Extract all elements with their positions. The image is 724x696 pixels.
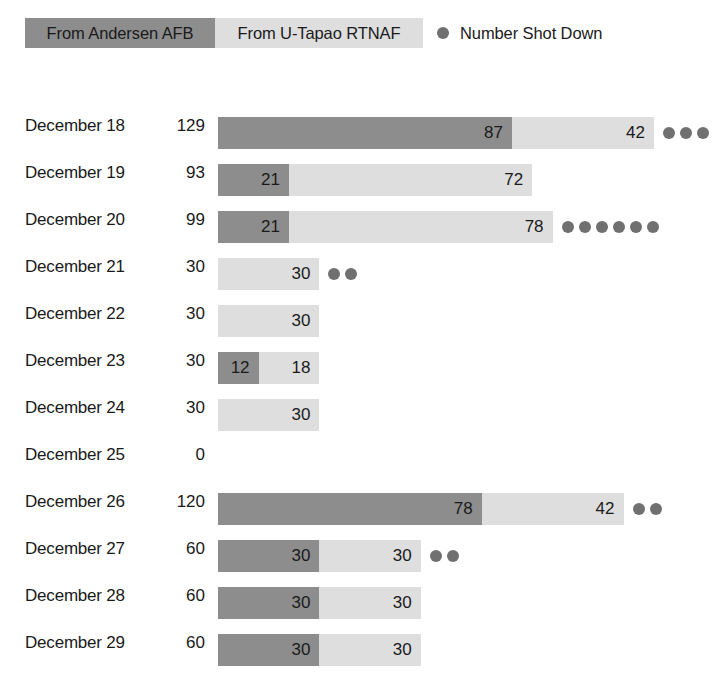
dot-marker-icon	[633, 503, 645, 515]
row-total-value: 60	[148, 627, 205, 659]
dot-marker-icon	[630, 221, 642, 233]
chart-row: December 29603030	[0, 627, 724, 674]
row-total-value: 30	[148, 251, 205, 283]
row-total-value: 0	[148, 439, 205, 471]
chart-row: December 20992178	[0, 204, 724, 251]
bar-segment-u-tapao-rtnaf: 42	[482, 493, 624, 525]
stacked-bar: 30	[218, 399, 319, 431]
stacked-bar: 2178	[218, 211, 553, 243]
shot-down-dots	[553, 211, 659, 243]
bar-segment-andersen-afb: 21	[218, 211, 289, 243]
stacked-bar: 3030	[218, 540, 421, 572]
legend-label-u-tapao-rtnaf: From U-Tapao RTNAF	[238, 24, 401, 43]
dot-marker-icon	[328, 268, 340, 280]
bar-segment-andersen-afb: 12	[218, 352, 259, 384]
stacked-bar: 3030	[218, 634, 421, 666]
row-total-value: 120	[148, 486, 205, 518]
row-category-label: December 29	[25, 627, 125, 659]
bar-segment-u-tapao-rtnaf: 30	[319, 540, 420, 572]
dot-marker-icon	[430, 550, 442, 562]
chart-row: December 250	[0, 439, 724, 486]
row-total-value: 30	[148, 345, 205, 377]
row-total-value: 30	[148, 392, 205, 424]
bar-segment-u-tapao-rtnaf: 30	[319, 587, 420, 619]
chart-row: December 213030	[0, 251, 724, 298]
bar-segment-andersen-afb: 30	[218, 634, 319, 666]
bar-segment-u-tapao-rtnaf: 30	[218, 305, 319, 337]
bar-segment-u-tapao-rtnaf: 72	[289, 164, 532, 196]
stacked-bar: 1218	[218, 352, 319, 384]
row-category-label: December 26	[25, 486, 125, 518]
dot-marker-icon	[579, 221, 591, 233]
bar-segment-andersen-afb: 78	[218, 493, 482, 525]
legend-item-andersen-afb: From Andersen AFB	[25, 18, 215, 48]
legend-item-number-shot-down: Number Shot Down	[423, 18, 602, 48]
dot-marker-icon	[647, 221, 659, 233]
dot-marker-icon	[447, 550, 459, 562]
chart-row: December 223030	[0, 298, 724, 345]
dot-marker-icon	[437, 27, 449, 39]
legend-item-u-tapao-rtnaf: From U-Tapao RTNAF	[215, 18, 423, 48]
dot-marker-icon	[680, 127, 692, 139]
dot-marker-icon	[697, 127, 709, 139]
stacked-bar: 30	[218, 305, 319, 337]
dot-marker-icon	[596, 221, 608, 233]
row-category-label: December 21	[25, 251, 125, 283]
row-category-label: December 24	[25, 392, 125, 424]
bar-segment-u-tapao-rtnaf: 42	[512, 117, 654, 149]
chart-legend: From Andersen AFB From U-Tapao RTNAF Num…	[25, 18, 602, 48]
row-total-value: 93	[148, 157, 205, 189]
row-category-label: December 20	[25, 204, 125, 236]
chart-row: December 27603030	[0, 533, 724, 580]
row-category-label: December 18	[25, 110, 125, 142]
stacked-bar: 2172	[218, 164, 532, 196]
chart-row: December 28603030	[0, 580, 724, 627]
chart-row: December 23301218	[0, 345, 724, 392]
bar-segment-andersen-afb: 30	[218, 587, 319, 619]
chart-row: December 181298742	[0, 110, 724, 157]
row-total-value: 60	[148, 533, 205, 565]
bar-segment-andersen-afb: 87	[218, 117, 512, 149]
bar-segment-u-tapao-rtnaf: 30	[218, 399, 319, 431]
stacked-bar: 8742	[218, 117, 654, 149]
chart-rows: December 181298742December 19932172Decem…	[0, 110, 724, 674]
shot-down-dots	[421, 540, 459, 572]
row-category-label: December 28	[25, 580, 125, 612]
dot-marker-icon	[345, 268, 357, 280]
row-category-label: December 23	[25, 345, 125, 377]
row-category-label: December 19	[25, 157, 125, 189]
legend-label-andersen-afb: From Andersen AFB	[47, 24, 194, 43]
stacked-bar: 30	[218, 258, 319, 290]
bar-segment-andersen-afb: 30	[218, 540, 319, 572]
chart-row: December 19932172	[0, 157, 724, 204]
shot-down-dots	[654, 117, 709, 149]
dot-marker-icon	[562, 221, 574, 233]
row-total-value: 129	[148, 110, 205, 142]
row-total-value: 99	[148, 204, 205, 236]
shot-down-dots	[319, 258, 357, 290]
bar-segment-u-tapao-rtnaf: 18	[259, 352, 320, 384]
chart-row: December 243030	[0, 392, 724, 439]
bar-segment-u-tapao-rtnaf: 30	[218, 258, 319, 290]
shot-down-dots	[624, 493, 662, 525]
legend-label-number-shot-down: Number Shot Down	[460, 24, 602, 43]
stacked-bar: 7842	[218, 493, 624, 525]
row-total-value: 30	[148, 298, 205, 330]
row-category-label: December 22	[25, 298, 125, 330]
row-category-label: December 27	[25, 533, 125, 565]
dot-marker-icon	[613, 221, 625, 233]
bar-segment-u-tapao-rtnaf: 78	[289, 211, 553, 243]
row-total-value: 60	[148, 580, 205, 612]
bar-segment-u-tapao-rtnaf: 30	[319, 634, 420, 666]
dot-marker-icon	[650, 503, 662, 515]
chart-row: December 261207842	[0, 486, 724, 533]
stacked-bar: 3030	[218, 587, 421, 619]
dot-marker-icon	[663, 127, 675, 139]
bar-segment-andersen-afb: 21	[218, 164, 289, 196]
row-category-label: December 25	[25, 439, 125, 471]
